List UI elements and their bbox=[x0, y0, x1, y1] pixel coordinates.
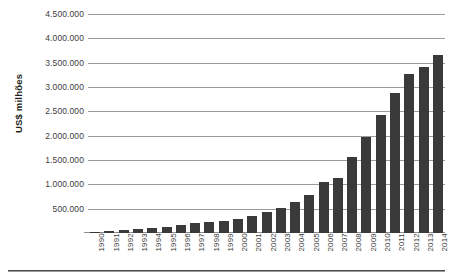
bar-1997 bbox=[190, 223, 200, 233]
bar-slot bbox=[90, 14, 100, 233]
y-tick-label: 2.000.000 bbox=[0, 131, 84, 140]
x-tick-label-1990: 1990 bbox=[98, 233, 106, 252]
bar-slot bbox=[361, 14, 371, 233]
bar-2012 bbox=[404, 74, 414, 233]
bar-slot bbox=[347, 14, 357, 233]
x-tick-label-1998: 1998 bbox=[213, 233, 221, 252]
bar-2005 bbox=[304, 195, 314, 233]
bar-slot bbox=[376, 14, 386, 233]
x-tick-label-2000: 2000 bbox=[241, 233, 249, 252]
x-tick-label-2011: 2011 bbox=[398, 233, 406, 251]
y-tick-label: 4.000.000 bbox=[0, 34, 84, 43]
footer-divider-shadow bbox=[8, 271, 445, 272]
bar-slot bbox=[433, 14, 443, 233]
x-tick-label-2008: 2008 bbox=[355, 233, 363, 252]
bar-slot bbox=[147, 14, 157, 233]
x-tick-label-2012: 2012 bbox=[413, 233, 421, 252]
bar-2007 bbox=[333, 178, 343, 233]
bar-slot bbox=[162, 14, 172, 233]
bar-slot bbox=[262, 14, 272, 233]
bar-2011 bbox=[390, 93, 400, 233]
bar-slot bbox=[104, 14, 114, 233]
bar-slot bbox=[233, 14, 243, 233]
x-tick-label-2001: 2001 bbox=[255, 233, 263, 252]
x-tick-label-2010: 2010 bbox=[384, 233, 392, 252]
x-tick-label-1996: 1996 bbox=[184, 233, 192, 252]
x-tick-label-1997: 1997 bbox=[198, 233, 206, 252]
x-tick-label-2013: 2013 bbox=[427, 233, 435, 252]
x-tick-label-2003: 2003 bbox=[284, 233, 292, 252]
y-tick-label: 3.000.000 bbox=[0, 83, 84, 92]
bar-series bbox=[88, 14, 445, 233]
bar-slot bbox=[276, 14, 286, 233]
bar-2008 bbox=[347, 157, 357, 233]
x-tick-label-2009: 2009 bbox=[370, 233, 378, 252]
x-tick-label-2006: 2006 bbox=[327, 233, 335, 252]
bar-2014 bbox=[433, 55, 443, 233]
bar-slot bbox=[390, 14, 400, 233]
bar-slot bbox=[190, 14, 200, 233]
bar-2002 bbox=[262, 212, 272, 233]
bar-slot bbox=[119, 14, 129, 233]
y-axis-tick-labels: 500.0001.000.0001.500.0002.000.0002.500.… bbox=[0, 14, 84, 233]
plot-area bbox=[88, 14, 445, 233]
bar-slot bbox=[219, 14, 229, 233]
x-tick-label-2005: 2005 bbox=[313, 233, 321, 252]
y-tick-label: 1.000.000 bbox=[0, 180, 84, 189]
bar-slot bbox=[404, 14, 414, 233]
bar-2003 bbox=[276, 208, 286, 233]
bar-2004 bbox=[290, 202, 300, 233]
bar-1998 bbox=[204, 222, 214, 233]
y-tick-label: 4.500.000 bbox=[0, 10, 84, 19]
x-tick-label-1991: 1991 bbox=[113, 233, 121, 252]
y-tick-label: 3.500.000 bbox=[0, 58, 84, 67]
x-tick-label-2002: 2002 bbox=[270, 233, 278, 252]
bar-2010 bbox=[376, 115, 386, 233]
bar-2000 bbox=[233, 219, 243, 233]
x-tick-label-1999: 1999 bbox=[227, 233, 235, 252]
bar-1999 bbox=[219, 221, 229, 233]
bar-2013 bbox=[419, 67, 429, 233]
x-tick-label-1993: 1993 bbox=[141, 233, 149, 252]
y-tick-label: 2.500.000 bbox=[0, 107, 84, 116]
bar-2006 bbox=[319, 182, 329, 233]
bar-slot bbox=[333, 14, 343, 233]
bar-slot bbox=[290, 14, 300, 233]
x-tick-label-1994: 1994 bbox=[155, 233, 163, 252]
y-tick-label: 500.000 bbox=[0, 204, 84, 213]
bar-slot bbox=[133, 14, 143, 233]
bar-slot bbox=[204, 14, 214, 233]
x-tick-label-1995: 1995 bbox=[170, 233, 178, 252]
bar-2009 bbox=[361, 137, 371, 233]
bar-slot bbox=[319, 14, 329, 233]
bar-slot bbox=[419, 14, 429, 233]
x-tick-label-2004: 2004 bbox=[298, 233, 306, 252]
x-axis-tick-labels: 1990199119921993199419951996199719981999… bbox=[88, 233, 445, 273]
x-tick-label-1992: 1992 bbox=[127, 233, 135, 252]
x-tick-label-2014: 2014 bbox=[441, 233, 449, 252]
y-tick-label: 1.500.000 bbox=[0, 156, 84, 165]
bar-slot bbox=[176, 14, 186, 233]
bar-chart: US$ milhões 500.0001.000.0001.500.0002.0… bbox=[0, 0, 453, 280]
bar-2001 bbox=[247, 216, 257, 233]
bar-slot bbox=[304, 14, 314, 233]
x-tick-label-2007: 2007 bbox=[341, 233, 349, 252]
bar-slot bbox=[247, 14, 257, 233]
